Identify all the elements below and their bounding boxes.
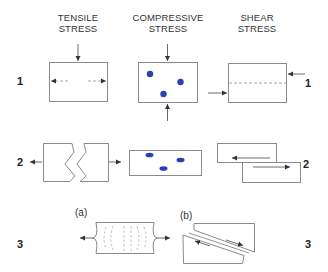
flattened-grain — [160, 166, 168, 171]
ductile-deformation-a — [80, 223, 170, 254]
flattened-grain — [177, 158, 185, 163]
grain-dot — [177, 79, 183, 85]
flattened-grain — [146, 153, 154, 158]
compressive-flattened-row2 — [130, 151, 202, 176]
grain-dot — [147, 71, 153, 77]
grain-dot — [160, 91, 166, 97]
tensile-block-row1 — [50, 44, 108, 102]
compressive-block-row1 — [139, 44, 198, 121]
stress-diagram — [0, 0, 328, 272]
tensile-fracture-row2 — [30, 144, 121, 182]
fault-slip-b — [183, 224, 255, 264]
shear-block-row1 — [208, 64, 305, 103]
shear-offset-row2 — [218, 144, 301, 183]
